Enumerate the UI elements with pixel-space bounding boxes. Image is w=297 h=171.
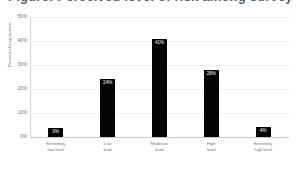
- x-tick-label-line: level: [185, 147, 237, 153]
- chart-title-clipped: Figure: Perceived level of risk among su…: [0, 0, 297, 7]
- x-tick-label: Extremelyhigh level: [237, 141, 289, 152]
- x-tick-label: Moderatelevel: [134, 141, 186, 152]
- bar-value-label: 41%: [152, 41, 167, 46]
- bar: 4%: [256, 127, 271, 137]
- x-tick-label: Extremelylow level: [30, 141, 82, 152]
- x-tick-label: Lowlevel: [82, 141, 134, 152]
- bar-value-label: 0%: [48, 130, 63, 135]
- bar-chart-figure: Figure: Perceived level of risk among su…: [0, 0, 297, 171]
- bar-value-label: 28%: [204, 72, 219, 77]
- bar: 41%: [152, 39, 167, 137]
- y-axis-title: Percent of respondents: [7, 5, 12, 85]
- chart-title: Figure: Perceived level of risk among su…: [8, 0, 297, 4]
- y-tick-label: 20%: [12, 87, 27, 92]
- gridline: [30, 17, 289, 18]
- y-tick-label: 0%: [12, 135, 27, 140]
- x-axis-line: [30, 137, 289, 138]
- x-tick-label-line: low level: [30, 147, 82, 153]
- y-tick-label: 40%: [12, 39, 27, 44]
- bar: 28%: [204, 70, 219, 137]
- bar-value-label: 4%: [256, 129, 271, 134]
- y-tick-label: 50%: [12, 15, 27, 20]
- x-tick-label-line: high level: [237, 147, 289, 153]
- x-tick-label: Highlevel: [185, 141, 237, 152]
- plot-area: 0%24%41%28%4%: [30, 17, 289, 137]
- x-tick-label-line: level: [134, 147, 186, 153]
- y-tick-label: 30%: [12, 63, 27, 68]
- x-tick-label-line: level: [82, 147, 134, 153]
- bar-value-label: 24%: [100, 81, 115, 86]
- y-tick-label: 10%: [12, 111, 27, 116]
- bar: 0%: [48, 128, 63, 137]
- bar: 24%: [100, 79, 115, 137]
